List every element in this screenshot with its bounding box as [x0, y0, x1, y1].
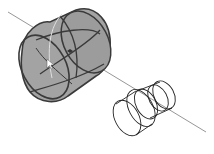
wire-rim-3	[130, 85, 163, 123]
wire-edge-1	[116, 91, 136, 104]
shaded-cylinder[interactable]	[9, 3, 121, 108]
diagram-canvas	[0, 0, 214, 154]
wire-edge-4	[150, 108, 172, 118]
cad-viewport[interactable]	[0, 0, 214, 154]
wire-rim-5	[148, 77, 180, 113]
wireframe-stepped-cylinder[interactable]	[107, 77, 179, 140]
wire-edge-2	[136, 124, 152, 135]
